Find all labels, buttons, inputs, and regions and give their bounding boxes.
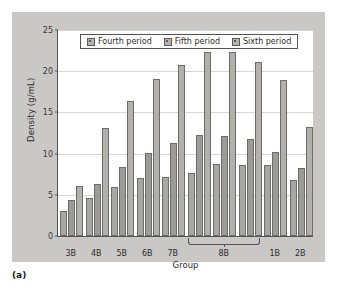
figure-panel: Density (g/mL) 0510152025 3B4B5B6B7B8B1B… (12, 12, 325, 262)
bar (229, 52, 236, 236)
bar (119, 167, 126, 236)
y-tick-label: 25 (43, 26, 53, 35)
bar (68, 200, 75, 236)
x-tick-label: 2B (295, 249, 306, 258)
legend-swatch-icon (87, 38, 95, 46)
bar (94, 184, 101, 236)
legend-label: Sixth period (243, 37, 291, 46)
bar (221, 136, 228, 236)
bar (102, 128, 109, 236)
bar (306, 127, 313, 236)
bar (162, 177, 169, 236)
legend-label: Fifth period (175, 37, 220, 46)
bar-group (111, 30, 134, 236)
legend-swatch-icon (232, 38, 240, 46)
bar-group (264, 30, 287, 236)
group-brace (188, 238, 261, 245)
legend-label: Fourth period (98, 37, 152, 46)
bar (111, 187, 118, 236)
bar-group (290, 30, 313, 236)
x-tick-label: 7B (167, 249, 178, 258)
bar (137, 178, 144, 236)
bars-layer (58, 30, 313, 236)
bar (298, 168, 305, 236)
bar (153, 79, 160, 236)
bar-group (188, 30, 211, 236)
bar-group (213, 30, 236, 236)
bar (239, 165, 246, 236)
bar (204, 52, 211, 236)
bar (280, 80, 287, 236)
bar-group (86, 30, 109, 236)
bar-group (137, 30, 160, 236)
x-tick-label: 4B (91, 249, 102, 258)
y-tick-label: 0 (48, 232, 53, 241)
x-tick-label: 3B (65, 249, 76, 258)
bar-group (60, 30, 83, 236)
bar (127, 101, 134, 236)
x-tick-label: 8B (218, 249, 229, 258)
x-tick-label: 5B (116, 249, 127, 258)
bar (145, 153, 152, 236)
x-axis-title: Group (173, 260, 199, 270)
legend-item-fourth-period: Fourth period (87, 37, 152, 46)
y-tick-label: 5 (48, 190, 53, 199)
bar (272, 152, 279, 236)
bar (86, 198, 93, 236)
y-axis-title: Density (g/mL) (26, 78, 36, 142)
x-tick-label: 1B (269, 249, 280, 258)
bar (247, 139, 254, 236)
bar (290, 180, 297, 236)
figure-caption: (a) (12, 270, 26, 280)
legend-item-fifth-period: Fifth period (164, 37, 220, 46)
y-tick-label: 10 (43, 149, 53, 158)
bar (178, 65, 185, 236)
bar (264, 165, 271, 236)
y-tick-label: 20 (43, 67, 53, 76)
bar (188, 173, 195, 236)
bar (60, 211, 67, 236)
y-tick-label: 15 (43, 108, 53, 117)
legend-item-sixth-period: Sixth period (232, 37, 291, 46)
bar (213, 164, 220, 236)
chart-legend: Fourth period Fifth period Sixth period (80, 34, 298, 49)
bar-group (162, 30, 185, 236)
bar-group (239, 30, 262, 236)
bar (196, 135, 203, 236)
x-tick-label: 6B (142, 249, 153, 258)
bar (76, 186, 83, 236)
bar (170, 143, 177, 236)
plot-area: 0510152025 3B4B5B6B7B8B1B2B Group Fourth… (57, 30, 313, 237)
bar (255, 62, 262, 236)
legend-swatch-icon (164, 38, 172, 46)
